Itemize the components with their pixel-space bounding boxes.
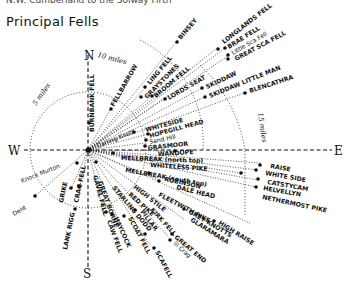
distance-label-10: 10 miles bbox=[97, 51, 128, 66]
label-grike: GRIKE bbox=[57, 181, 68, 203]
fells-radial-diagram: N S E W 10 miles 5 miles 15 miles BINSEY… bbox=[0, 0, 349, 281]
compass-south: S bbox=[83, 267, 91, 281]
compass-north: N bbox=[84, 49, 95, 63]
label-crag-fell: CRAG FELL bbox=[72, 165, 87, 203]
compass-east: E bbox=[334, 144, 343, 158]
distance-label-15: 15 miles bbox=[256, 112, 268, 143]
label-burnbank-fell: BURNBANK FELL bbox=[88, 74, 95, 132]
label-dent: Dent bbox=[11, 203, 28, 217]
distance-label-5: 5 miles bbox=[31, 81, 52, 107]
label-knock-murton: Knock Murton bbox=[20, 162, 61, 184]
label-scafell: SCAFELL bbox=[154, 249, 174, 279]
label-lank-rigg: LANK RIGG bbox=[61, 211, 76, 250]
label-carling-knott: Carling Knott bbox=[96, 127, 136, 149]
label-binsey: BINSEY bbox=[176, 16, 198, 40]
compass-west: W bbox=[8, 144, 21, 158]
label-fellbarrow: FELLBARROW bbox=[109, 63, 139, 108]
